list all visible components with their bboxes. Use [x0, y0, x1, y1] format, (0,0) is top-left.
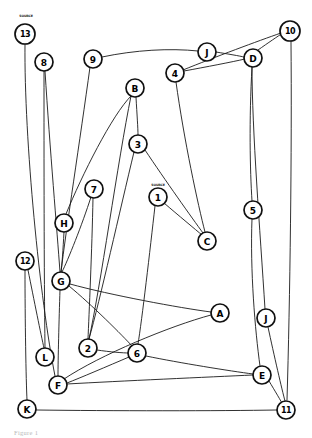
node-label: J	[204, 48, 208, 58]
annotation-layer: SOURCESOURCE	[19, 14, 164, 187]
graph-edge	[102, 50, 198, 57]
node-label: 3	[135, 140, 141, 150]
graph-edge	[70, 284, 211, 312]
graph-node[interactable]: 6	[128, 344, 146, 362]
graph-node[interactable]: B	[126, 79, 144, 97]
graph-node[interactable]: D	[244, 49, 262, 67]
node-label: 4	[172, 69, 178, 79]
node-label: L	[42, 353, 48, 363]
graph-edge	[28, 270, 44, 348]
node-label: B	[132, 84, 139, 94]
node-label: K	[24, 405, 32, 415]
graph-edge	[25, 44, 55, 376]
graph-node[interactable]: 11	[277, 401, 295, 419]
node-label: D	[249, 54, 256, 64]
graph-node[interactable]: G	[52, 272, 70, 290]
graph-edge	[176, 82, 205, 232]
graph-node[interactable]: 13	[15, 24, 35, 44]
graph-edge	[58, 290, 60, 376]
graph-node[interactable]: E	[253, 366, 271, 384]
graph-edge	[146, 356, 253, 374]
node-label: 1	[155, 193, 161, 203]
graph-node[interactable]: J	[257, 309, 275, 327]
graph-node[interactable]: H	[55, 214, 73, 232]
graph-edge	[45, 71, 60, 272]
graph-edge	[136, 97, 138, 135]
node-label: 12	[20, 257, 30, 266]
graph-node[interactable]: 5	[244, 201, 262, 219]
node-label: H	[60, 219, 68, 229]
node-label: J	[263, 314, 267, 324]
graph-node[interactable]: 7	[85, 180, 103, 198]
node-label: 2	[85, 344, 91, 354]
graph-edge	[184, 59, 245, 71]
node-label: C	[204, 237, 211, 247]
graph-edge	[250, 67, 252, 201]
micro-annotation: SOURCE	[151, 183, 164, 187]
graph-node[interactable]: 2	[79, 339, 97, 357]
micro-annotation: SOURCE	[19, 14, 32, 18]
graph-edge	[36, 410, 277, 411]
graph-edge	[252, 219, 260, 366]
node-label: 11	[281, 406, 292, 415]
graph-edge	[252, 67, 265, 309]
graph-node[interactable]: 3	[129, 135, 147, 153]
graph-edge	[258, 33, 283, 50]
graph-svg: 1389JD104B3157HC12GAJL26EFK11 SOURCESOUR…	[0, 0, 312, 438]
graph-node[interactable]: 1	[149, 188, 167, 206]
figure-caption: Figure 1	[14, 429, 38, 436]
graph-edge	[164, 203, 202, 235]
node-label: E	[259, 371, 265, 381]
graph-node[interactable]: 10	[280, 21, 300, 41]
graph-node[interactable]: 12	[16, 252, 34, 270]
graph-edge	[69, 286, 133, 347]
graph-edge	[25, 270, 27, 400]
node-label: F	[55, 381, 61, 391]
graph-edge	[138, 206, 155, 344]
graph-node[interactable]: L	[36, 348, 54, 366]
graph-edge	[88, 198, 93, 339]
graph-edge	[67, 375, 253, 384]
node-label: A	[217, 309, 224, 319]
graph-node[interactable]: 8	[35, 53, 53, 71]
node-label: 9	[90, 55, 96, 65]
graph-edge	[67, 357, 129, 383]
node-label: G	[57, 277, 64, 287]
graph-edge	[216, 52, 244, 57]
node-label: 5	[250, 206, 256, 216]
figure-canvas: 1389JD104B3157HC12GAJL26EFK11 SOURCESOUR…	[0, 0, 312, 438]
graph-edge	[287, 41, 291, 400]
graph-node[interactable]: F	[49, 376, 67, 394]
graph-edge	[89, 96, 131, 339]
node-label: 8	[41, 58, 47, 68]
graph-node[interactable]: A	[211, 304, 229, 322]
node-label: 7	[91, 185, 97, 195]
graph-node[interactable]: J	[198, 43, 216, 61]
node-label: 13	[20, 30, 30, 39]
graph-node[interactable]: C	[198, 232, 216, 250]
graph-node[interactable]: 9	[84, 50, 102, 68]
graph-node[interactable]: 4	[166, 64, 184, 82]
graph-edge	[268, 327, 285, 401]
node-label: 6	[134, 349, 140, 359]
graph-node[interactable]: K	[18, 400, 36, 418]
node-label: 10	[285, 27, 296, 36]
